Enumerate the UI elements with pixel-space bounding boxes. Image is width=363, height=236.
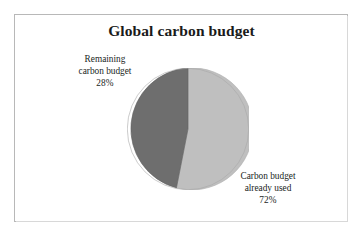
pie-label-remaining-line1: Remaining: [50, 53, 160, 65]
pie-label-remaining-carbon-budget: Remaining carbon budget 28%: [50, 53, 160, 89]
pie-label-remaining-line2: carbon budget: [50, 65, 160, 77]
chart-page: Global carbon budget Remaining carbon bu…: [0, 0, 363, 236]
pie-label-used-line1: Carbon budget: [213, 170, 323, 182]
pie-label-carbon-budget-already-used: Carbon budget already used 72%: [213, 170, 323, 206]
pie-label-used-value: 72%: [213, 194, 323, 206]
pie-label-used-line2: already used: [213, 182, 323, 194]
pie-label-remaining-value: 28%: [50, 77, 160, 89]
chart-title: Global carbon budget: [0, 22, 363, 39]
